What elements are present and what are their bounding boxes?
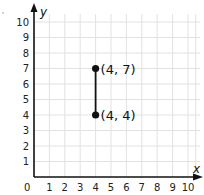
y-tick-label: 5 — [23, 94, 29, 105]
y-tick-label: 9 — [23, 32, 29, 43]
axes — [31, 3, 204, 181]
tick-labels: 1234567891012345678910 — [16, 17, 194, 194]
coordinate-plane: 1234567891012345678910 x y 0 (4, 7)(4, 4… — [0, 0, 203, 195]
x-tick-label: 5 — [108, 182, 114, 193]
x-axis-label: x — [192, 162, 201, 176]
data-layer: (4, 7)(4, 4) — [92, 62, 136, 124]
x-tick-label: 4 — [92, 182, 98, 193]
y-tick-label: 6 — [23, 79, 29, 90]
y-tick-label: 8 — [23, 48, 29, 59]
x-tick-label: 10 — [182, 182, 195, 193]
x-tick-label: 1 — [46, 182, 52, 193]
y-tick-label: 7 — [23, 63, 29, 74]
data-point — [92, 65, 99, 72]
origin-label: 0 — [24, 182, 30, 193]
x-tick-label: 7 — [139, 182, 145, 193]
x-tick-label: 8 — [154, 182, 160, 193]
point-label: (4, 4) — [101, 108, 136, 123]
y-axis-label: y — [39, 5, 48, 19]
y-tick-label: 1 — [23, 156, 29, 167]
x-tick-label: 9 — [169, 182, 175, 193]
point-label: (4, 7) — [101, 62, 136, 77]
data-point — [92, 111, 99, 118]
stray-dot — [2, 12, 4, 14]
y-tick-label: 2 — [23, 141, 29, 152]
y-tick-label: 10 — [16, 17, 29, 28]
y-tick-label: 4 — [23, 110, 29, 121]
grid-lines — [34, 14, 200, 177]
x-tick-label: 3 — [77, 182, 83, 193]
y-tick-label: 3 — [23, 125, 29, 136]
y-axis-arrow-icon — [31, 3, 38, 12]
x-tick-label: 2 — [62, 182, 68, 193]
x-tick-label: 6 — [123, 182, 129, 193]
